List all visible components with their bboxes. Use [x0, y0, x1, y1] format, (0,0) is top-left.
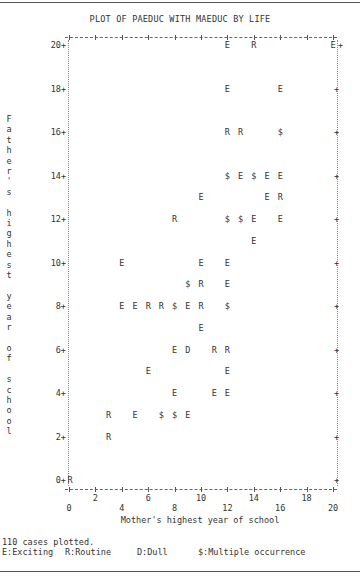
y-tick-label: 2+ — [36, 432, 66, 442]
data-point-e: E — [117, 301, 127, 311]
bottom-rule — [0, 571, 360, 572]
y-tick-right: + — [334, 171, 339, 181]
data-point-r: R — [156, 301, 166, 311]
data-point-multiple: $ — [222, 301, 232, 311]
data-point-multiple: $ — [156, 410, 166, 420]
x-tick-top — [69, 35, 70, 40]
x-tick-label: 8 — [165, 503, 185, 513]
data-point-r: R — [143, 301, 153, 311]
x-tick-top — [175, 35, 176, 40]
data-point-e: E — [196, 323, 206, 333]
data-point-e: E — [183, 301, 193, 311]
data-point-e: E — [117, 258, 127, 268]
data-point-e: E — [222, 258, 232, 268]
y-tick-right: + — [334, 127, 339, 137]
left-axis-line — [68, 40, 69, 486]
x-tick-bottom — [254, 487, 255, 492]
data-point-e: E — [249, 236, 259, 246]
y-tick-label: 8+ — [36, 301, 66, 311]
data-point-r: R — [170, 214, 180, 224]
data-point-e: E — [262, 192, 272, 202]
cases-plotted-text: 110 cases plotted. — [2, 537, 94, 547]
data-point-e: E — [143, 366, 153, 376]
data-point-multiple: $ — [222, 214, 232, 224]
data-point-e: E — [275, 171, 285, 181]
legend-dull: D:Dull — [137, 547, 168, 557]
data-point-e: E — [222, 366, 232, 376]
x-tick-bottom — [122, 487, 123, 492]
x-tick-bottom — [148, 487, 149, 492]
data-point-multiple: $ — [249, 171, 259, 181]
y-tick-label: 16+ — [36, 127, 66, 137]
x-tick-top — [280, 35, 281, 40]
data-point-e: E — [328, 40, 338, 50]
y-tick-right: + — [334, 84, 339, 94]
y-tick-right: + — [334, 388, 339, 398]
x-tick-label: 16 — [270, 503, 290, 513]
data-point-e: E — [130, 410, 140, 420]
data-point-e: E — [183, 410, 193, 420]
x-tick-label: 4 — [112, 503, 132, 513]
x-tick-bottom — [69, 487, 70, 492]
data-point-multiple: $ — [170, 301, 180, 311]
data-point-e: E — [222, 84, 232, 94]
x-tick-top — [122, 35, 123, 40]
y-tick-label: 10+ — [36, 258, 66, 268]
data-point-e: E — [209, 388, 219, 398]
data-point-r: R — [104, 410, 114, 420]
y-tick-right: + — [338, 40, 343, 50]
y-tick-right: + — [334, 301, 339, 311]
x-tick-bottom — [307, 487, 308, 492]
x-axis-title: Mother's highest year of school — [0, 515, 360, 525]
x-tick-label: 20 — [323, 503, 343, 513]
x-tick-top — [95, 35, 96, 40]
x-tick-bottom — [227, 487, 228, 492]
y-tick-right: + — [334, 432, 339, 442]
data-point-r: R — [222, 127, 232, 137]
data-point-multiple: $ — [222, 171, 232, 181]
x-tick-top — [201, 35, 202, 40]
data-point-r: R — [196, 301, 206, 311]
data-point-e: E — [170, 388, 180, 398]
data-point-e: E — [236, 171, 246, 181]
x-tick-label: 2 — [85, 493, 105, 503]
legend-multiple-occurrence: $:Multiple occurrence — [198, 547, 305, 557]
data-point-e: E — [275, 84, 285, 94]
data-point-e: E — [222, 40, 232, 50]
y-tick-right: + — [334, 345, 339, 355]
data-point-r: R — [65, 475, 75, 485]
data-point-r: R — [275, 192, 285, 202]
x-tick-label: 0 — [59, 503, 79, 513]
x-tick-label: 18 — [297, 493, 317, 503]
y-tick-label: 20+ — [36, 40, 66, 50]
x-tick-top — [307, 35, 308, 40]
data-point-multiple: $ — [275, 127, 285, 137]
data-point-d: D — [183, 345, 193, 355]
data-point-e: E — [275, 214, 285, 224]
x-tick-label: 6 — [138, 493, 158, 503]
data-point-r: R — [236, 127, 246, 137]
legend-routine: R:Routine — [65, 547, 111, 557]
x-tick-label: 10 — [191, 493, 211, 503]
y-tick-label: 12+ — [36, 214, 66, 224]
data-point-r: R — [249, 40, 259, 50]
legend-exciting: E:Exciting — [2, 547, 53, 557]
y-tick-label: 14+ — [36, 171, 66, 181]
x-tick-label: 12 — [217, 503, 237, 513]
data-point-r: R — [222, 345, 232, 355]
data-point-multiple: $ — [170, 410, 180, 420]
scatter-plot-area: 024681012141618200++2++4++6++8++10++12++… — [0, 0, 360, 578]
y-tick-label: 6+ — [36, 345, 66, 355]
data-point-e: E — [196, 258, 206, 268]
y-tick-right: + — [334, 214, 339, 224]
x-tick-bottom — [175, 487, 176, 492]
y-tick-right: + — [334, 475, 339, 485]
data-point-e: E — [222, 388, 232, 398]
data-point-e: E — [170, 345, 180, 355]
x-tick-bottom — [280, 487, 281, 492]
data-point-e: E — [196, 192, 206, 202]
data-point-multiple: $ — [236, 214, 246, 224]
data-point-e: E — [262, 171, 272, 181]
data-point-e: E — [249, 214, 259, 224]
data-point-r: R — [196, 279, 206, 289]
